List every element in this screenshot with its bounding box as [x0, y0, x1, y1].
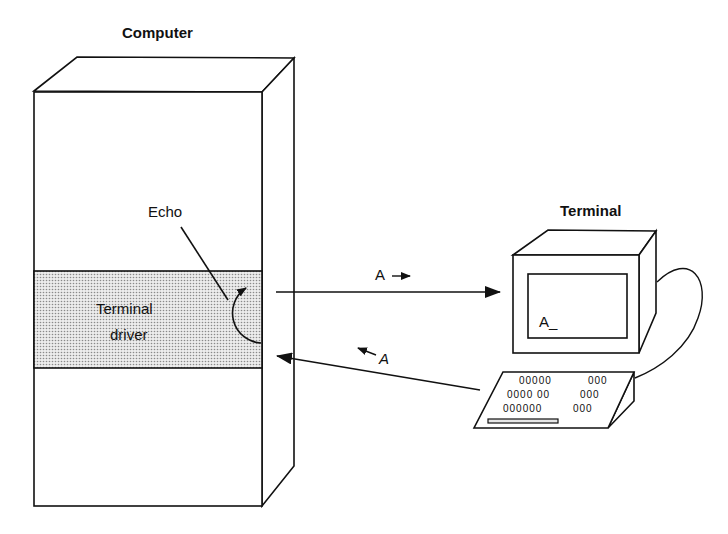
terminal-driver-label-line1: Terminal — [96, 300, 153, 317]
spacebar — [488, 419, 558, 423]
diagram-graphics — [0, 0, 728, 534]
keyboard-row-2-left: 0000 00 — [507, 389, 550, 400]
terminal-screen-text: A_ — [539, 313, 557, 330]
computer-title: Computer — [122, 24, 193, 41]
keyboard-row-1-left: 00000 — [519, 375, 552, 386]
computer-cabinet — [34, 57, 294, 506]
echo-label: Echo — [148, 203, 182, 220]
arrow-to-terminal — [276, 276, 500, 292]
keyboard-row-2-right: 000 — [580, 389, 600, 400]
keyboard-row-1-right: 000 — [588, 375, 608, 386]
terminal-driver-label-line2: driver — [110, 326, 148, 343]
terminal-monitor — [513, 230, 656, 353]
diagram-canvas: Computer Echo Terminal driver Terminal A… — [0, 0, 728, 534]
terminal-driver-band — [34, 271, 262, 368]
keyboard-row-3-left: 000000 — [503, 403, 542, 414]
terminal-title: Terminal — [560, 202, 621, 219]
arrow-label-to-terminal: A — [375, 266, 385, 283]
arrow-label-to-computer: A — [379, 350, 389, 367]
terminal-keyboard — [474, 372, 634, 428]
keyboard-row-3-right: 000 — [573, 403, 593, 414]
